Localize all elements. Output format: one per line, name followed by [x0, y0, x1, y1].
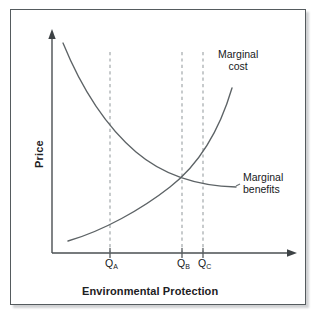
figure-root: Price Environmental Protection Marginal …: [0, 0, 323, 325]
curve-label-marginal-cost: Marginal cost: [218, 49, 258, 73]
x-tick-label-qb: QB: [177, 258, 190, 270]
x-tick-label-qa-sub: A: [113, 263, 118, 270]
x-tick-label-qb-base: Q: [177, 257, 185, 269]
x-tick-label-qc-sub: C: [206, 263, 211, 270]
x-tick-label-qa-base: Q: [105, 257, 113, 269]
x-tick-label-qc: QC: [198, 258, 211, 270]
curve-label-marginal-benefits-line1: Marginal: [243, 172, 283, 184]
curve-label-marginal-benefits: Marginal benefits: [243, 172, 283, 196]
figure-frame: [10, 9, 306, 305]
x-tick-label-qb-sub: B: [185, 263, 190, 270]
curve-label-marginal-cost-line2: cost: [218, 61, 258, 73]
curve-label-marginal-benefits-line2: benefits: [243, 184, 283, 196]
y-axis-title: Price: [33, 140, 45, 168]
curve-label-marginal-cost-line1: Marginal: [218, 49, 258, 61]
x-tick-label-qc-base: Q: [198, 257, 206, 269]
x-tick-label-qa: QA: [105, 258, 118, 270]
x-axis-title: Environmental Protection: [82, 285, 218, 297]
